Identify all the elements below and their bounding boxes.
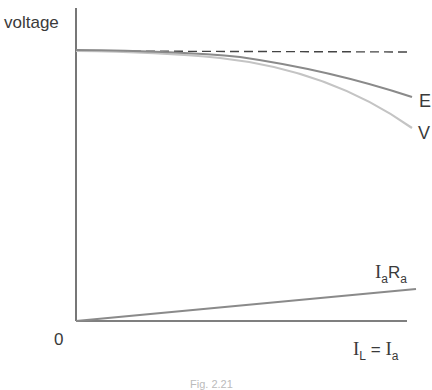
x-label-equals: = (366, 340, 385, 359)
curve-v-label: V (418, 124, 430, 142)
x-label-i2: I (385, 338, 391, 359)
iara-line (76, 289, 416, 321)
iara-label: IaRa (375, 262, 407, 281)
y-axis-label: voltage (4, 14, 59, 31)
x-axis-label: IL = Ia (353, 339, 398, 358)
figure-caption: Fig. 2.21 (190, 378, 233, 390)
x-label-sub-a: a (392, 349, 399, 363)
curve-v (76, 51, 412, 128)
iara-sub-a2: a (400, 272, 407, 286)
curve-e-label: E (419, 92, 431, 110)
curve-e (76, 50, 412, 97)
x-label-sub-l: L (359, 349, 366, 363)
origin-label: 0 (54, 331, 63, 348)
iara-sub-a: a (381, 272, 388, 286)
iara-r: R (388, 263, 400, 282)
